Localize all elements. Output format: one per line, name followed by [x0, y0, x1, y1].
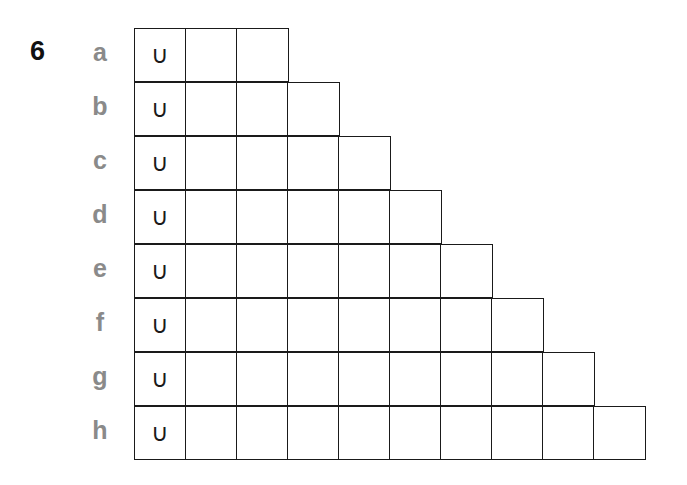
grid-cell[interactable]: ∪ — [134, 298, 187, 352]
question-number: 6 — [30, 36, 45, 67]
grid-cell[interactable] — [338, 136, 391, 190]
row-label-h: h — [88, 416, 112, 445]
union-symbol: ∪ — [151, 203, 169, 231]
union-symbol: ∪ — [151, 41, 169, 69]
grid-cell[interactable] — [287, 244, 340, 298]
union-symbol: ∪ — [151, 311, 169, 339]
grid-cell[interactable]: ∪ — [134, 82, 187, 136]
grid-cell[interactable] — [287, 190, 340, 244]
grid-cell[interactable] — [338, 190, 391, 244]
union-symbol: ∪ — [151, 257, 169, 285]
grid-cell[interactable] — [185, 190, 238, 244]
grid-cell[interactable] — [236, 82, 289, 136]
row-label-a: a — [88, 38, 112, 67]
grid-row-a: ∪ — [134, 28, 287, 82]
grid-row-c: ∪ — [134, 136, 389, 190]
grid-cell[interactable] — [389, 352, 442, 406]
grid-cell[interactable] — [389, 298, 442, 352]
union-symbol: ∪ — [151, 419, 169, 447]
grid-row-d: ∪ — [134, 190, 440, 244]
grid-cell[interactable] — [440, 406, 493, 460]
grid-row-f: ∪ — [134, 298, 542, 352]
grid-cell[interactable]: ∪ — [134, 406, 187, 460]
grid-cell[interactable] — [542, 352, 595, 406]
row-label-b: b — [88, 92, 112, 121]
grid-cell[interactable] — [338, 406, 391, 460]
grid-cell[interactable] — [389, 244, 442, 298]
grid-cell[interactable]: ∪ — [134, 352, 187, 406]
row-label-c: c — [88, 146, 112, 175]
grid-cell[interactable] — [287, 352, 340, 406]
grid-cell[interactable]: ∪ — [134, 136, 187, 190]
grid-cell[interactable] — [287, 136, 340, 190]
grid-cell[interactable] — [185, 244, 238, 298]
grid-cell[interactable]: ∪ — [134, 190, 187, 244]
grid-cell[interactable] — [185, 136, 238, 190]
grid-cell[interactable] — [185, 82, 238, 136]
row-label-d: d — [88, 200, 112, 229]
grid-cell[interactable] — [491, 298, 544, 352]
grid-cell[interactable] — [491, 406, 544, 460]
row-label-e: e — [88, 254, 112, 283]
grid-cell[interactable] — [185, 28, 238, 82]
row-label-g: g — [88, 362, 112, 391]
grid-cell[interactable] — [185, 406, 238, 460]
grid-row-e: ∪ — [134, 244, 491, 298]
union-symbol: ∪ — [151, 365, 169, 393]
grid-cell[interactable] — [491, 352, 544, 406]
grid-cell[interactable]: ∪ — [134, 244, 187, 298]
grid-cell[interactable] — [236, 28, 289, 82]
grid-cell[interactable] — [185, 352, 238, 406]
grid-cell[interactable] — [389, 406, 442, 460]
grid-cell[interactable] — [287, 298, 340, 352]
grid-cell[interactable] — [236, 190, 289, 244]
grid-cell[interactable] — [440, 352, 493, 406]
grid-cell[interactable] — [236, 298, 289, 352]
row-label-f: f — [88, 308, 112, 337]
grid-cell[interactable] — [338, 244, 391, 298]
grid-cell[interactable] — [338, 352, 391, 406]
grid-cell[interactable] — [593, 406, 646, 460]
grid-cell[interactable] — [287, 406, 340, 460]
grid-cell[interactable] — [440, 298, 493, 352]
grid-cell[interactable] — [389, 190, 442, 244]
grid-cell[interactable] — [287, 82, 340, 136]
grid-cell[interactable] — [236, 136, 289, 190]
grid-cell[interactable] — [236, 244, 289, 298]
grid-cell[interactable] — [338, 298, 391, 352]
grid-row-b: ∪ — [134, 82, 338, 136]
grid-row-h: ∪ — [134, 406, 644, 460]
grid-cell[interactable] — [542, 406, 595, 460]
grid-cell[interactable] — [236, 352, 289, 406]
grid-cell[interactable]: ∪ — [134, 28, 187, 82]
grid-cell[interactable] — [185, 298, 238, 352]
union-symbol: ∪ — [151, 95, 169, 123]
grid-cell[interactable] — [236, 406, 289, 460]
grid-cell[interactable] — [440, 244, 493, 298]
grid-row-g: ∪ — [134, 352, 593, 406]
union-symbol: ∪ — [151, 149, 169, 177]
